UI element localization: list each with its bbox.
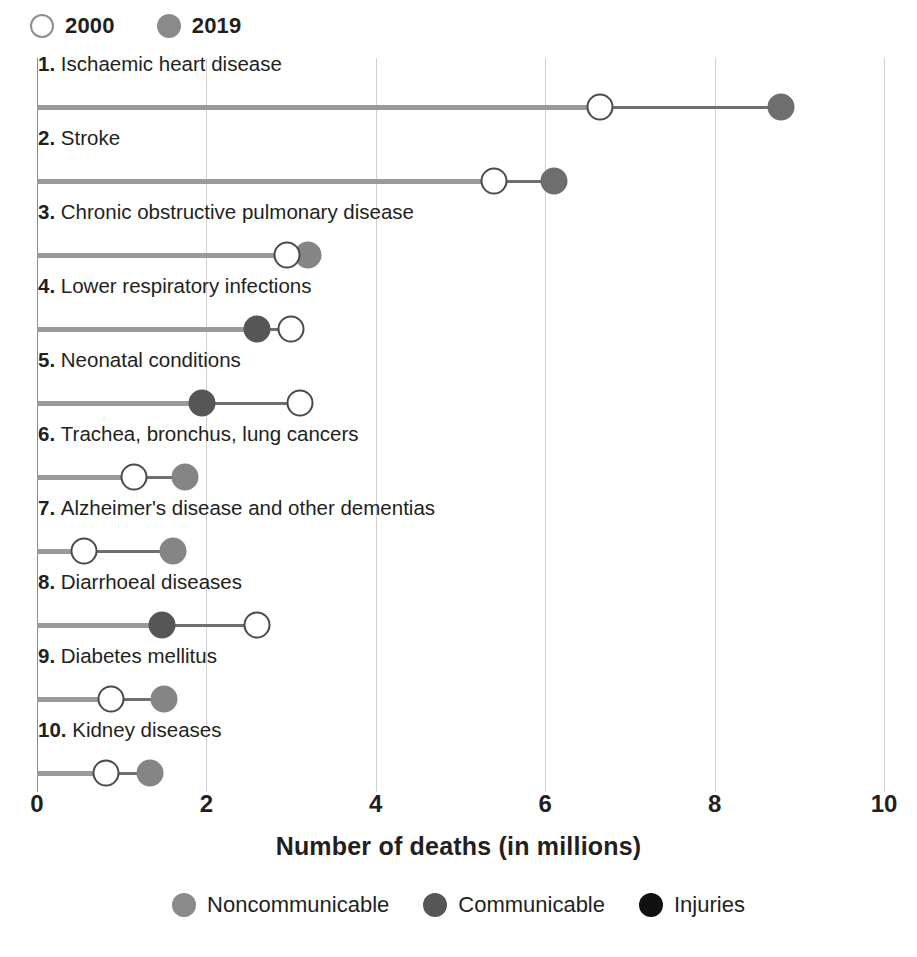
- row-label: 8. Diarrhoeal diseases: [38, 570, 242, 594]
- row-label: 6. Trachea, bronchus, lung cancers: [38, 422, 359, 446]
- legend-label-communicable: Communicable: [458, 894, 605, 916]
- communicable-circle-icon: [423, 893, 447, 917]
- chart-row: 3. Chronic obstructive pulmonary disease: [0, 200, 917, 274]
- legend-label-noncommunicable: Noncommunicable: [207, 894, 389, 916]
- legend-item-noncommunicable: Noncommunicable: [172, 893, 389, 917]
- row-rank: 6.: [38, 422, 61, 445]
- row-track: [37, 179, 494, 184]
- data-point-2019: [540, 168, 567, 195]
- row-label: 1. Ischaemic heart disease: [38, 52, 282, 76]
- category-legend: Noncommunicable Communicable Injuries: [0, 893, 917, 917]
- x-tick-label-6: 6: [539, 790, 552, 818]
- row-name: Diarrhoeal diseases: [61, 570, 242, 593]
- row-rank: 7.: [38, 496, 61, 519]
- legend-label-injuries: Injuries: [674, 894, 745, 916]
- row-rank: 5.: [38, 348, 61, 371]
- row-track: [37, 253, 287, 258]
- data-point-2000: [286, 390, 313, 417]
- data-point-2019: [159, 538, 186, 565]
- data-point-2000: [481, 168, 508, 195]
- injuries-circle-icon: [639, 893, 663, 917]
- row-rank: 3.: [38, 200, 61, 223]
- row-name: Kidney diseases: [72, 718, 221, 741]
- legend-label-2019: 2019: [192, 15, 242, 37]
- row-track: [37, 401, 202, 406]
- chart-row: 4. Lower respiratory infections: [0, 274, 917, 348]
- chart-row: 6. Trachea, bronchus, lung cancers: [0, 422, 917, 496]
- legend-item-2019: 2019: [157, 14, 242, 38]
- x-tick-label-2: 2: [200, 790, 213, 818]
- data-point-2019: [148, 612, 175, 639]
- row-name: Neonatal conditions: [61, 348, 241, 371]
- x-tick-label-8: 8: [708, 790, 721, 818]
- row-label: 3. Chronic obstructive pulmonary disease: [38, 200, 414, 224]
- data-point-2000: [93, 760, 120, 787]
- legend-item-2000: 2000: [30, 14, 115, 38]
- chart-row: 7. Alzheimer's disease and other dementi…: [0, 496, 917, 570]
- row-rank: 1.: [38, 52, 61, 75]
- chart-row: 10. Kidney diseases: [0, 718, 917, 792]
- data-point-2019: [767, 94, 794, 121]
- row-name: Ischaemic heart disease: [61, 52, 282, 75]
- data-point-2019: [244, 316, 271, 343]
- data-point-2000: [121, 464, 148, 491]
- x-tick-label-0: 0: [30, 790, 43, 818]
- chart-row: 8. Diarrhoeal diseases: [0, 570, 917, 644]
- row-name: Alzheimer's disease and other dementias: [61, 496, 435, 519]
- x-axis-ticks: 0246810: [0, 790, 917, 830]
- row-label: 7. Alzheimer's disease and other dementi…: [38, 496, 435, 520]
- data-point-2019: [172, 464, 199, 491]
- x-tick-label-10: 10: [871, 790, 898, 818]
- x-axis-title: Number of deaths (in millions): [0, 832, 917, 861]
- data-point-2000: [273, 242, 300, 269]
- row-name: Lower respiratory infections: [61, 274, 312, 297]
- row-label: 4. Lower respiratory infections: [38, 274, 311, 298]
- row-name: Diabetes mellitus: [61, 644, 217, 667]
- filled-circle-icon: [157, 14, 181, 38]
- x-tick-label-4: 4: [369, 790, 382, 818]
- noncommunicable-circle-icon: [172, 893, 196, 917]
- data-point-2019: [189, 390, 216, 417]
- row-track: [37, 475, 134, 480]
- row-label: 5. Neonatal conditions: [38, 348, 241, 372]
- row-track: [37, 105, 600, 110]
- legend-item-communicable: Communicable: [423, 893, 605, 917]
- row-label: 9. Diabetes mellitus: [38, 644, 217, 668]
- year-legend: 2000 2019: [30, 9, 242, 43]
- row-track: [37, 623, 162, 628]
- row-track: [37, 327, 257, 332]
- data-point-2000: [587, 94, 614, 121]
- data-point-2019: [136, 760, 163, 787]
- data-point-2000: [70, 538, 97, 565]
- row-connector: [202, 402, 299, 405]
- data-point-2000: [244, 612, 271, 639]
- row-rank: 8.: [38, 570, 61, 593]
- row-name: Stroke: [61, 126, 120, 149]
- row-rank: 4.: [38, 274, 61, 297]
- data-point-2000: [97, 686, 124, 713]
- hollow-circle-icon: [30, 14, 54, 38]
- row-rank: 9.: [38, 644, 61, 667]
- row-name: Chronic obstructive pulmonary disease: [61, 200, 414, 223]
- chart-row: 2. Stroke: [0, 126, 917, 200]
- chart-row: 1. Ischaemic heart disease: [0, 52, 917, 126]
- row-connector: [600, 106, 780, 109]
- legend-item-injuries: Injuries: [639, 893, 745, 917]
- chart-plot-area: 1. Ischaemic heart disease2. Stroke3. Ch…: [0, 52, 917, 792]
- row-label: 10. Kidney diseases: [38, 718, 222, 742]
- row-label: 2. Stroke: [38, 126, 120, 150]
- data-point-2000: [278, 316, 305, 343]
- row-name: Trachea, bronchus, lung cancers: [61, 422, 359, 445]
- legend-label-2000: 2000: [65, 15, 115, 37]
- data-point-2019: [151, 686, 178, 713]
- chart-row: 5. Neonatal conditions: [0, 348, 917, 422]
- row-rank: 10.: [38, 718, 72, 741]
- chart-row: 9. Diabetes mellitus: [0, 644, 917, 718]
- row-rank: 2.: [38, 126, 61, 149]
